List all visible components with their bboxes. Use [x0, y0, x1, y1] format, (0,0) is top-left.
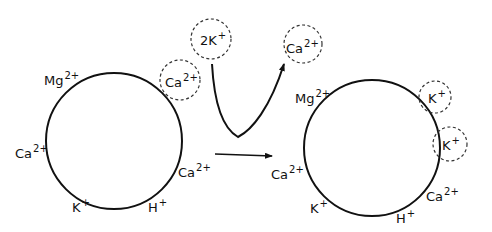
left-ca-top-label: Ca2+ — [165, 76, 198, 89]
left-k-label: K+ — [72, 201, 90, 214]
right-mg-label: Mg2+ — [295, 92, 330, 105]
left-mg-label: Mg2+ — [44, 74, 79, 87]
right-h-label: H+ — [396, 212, 415, 225]
left-ca-right-label: Ca2+ — [178, 166, 211, 179]
left-ca-left-label: Ca2+ — [15, 147, 48, 160]
right-k-label: K+ — [310, 202, 328, 215]
left-cell-circle — [46, 73, 182, 209]
left-h-label: H+ — [148, 201, 167, 214]
diagram-canvas — [0, 0, 492, 232]
right-ca-left-label: Ca2+ — [271, 168, 304, 181]
incoming-2k-label: 2K+ — [200, 34, 226, 47]
outgoing-ca-label: Ca2+ — [286, 42, 319, 55]
right-k-side-label: K+ — [442, 139, 460, 152]
reaction-arrow — [215, 154, 272, 156]
exchange-curve-arrow — [212, 64, 284, 137]
right-k-top-label: K+ — [428, 92, 446, 105]
right-ca-right-label: Ca2+ — [426, 190, 459, 203]
